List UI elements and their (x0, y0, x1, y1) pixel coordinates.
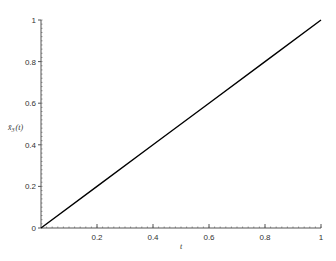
x-tick-label: 0.4 (147, 233, 159, 242)
y-tick-label: 0.4 (25, 141, 37, 150)
line-chart: 0.20.40.60.81 00.20.40.60.81 t x̄3(t) (0, 0, 336, 261)
y-axis-label: x̄3(t) (7, 123, 23, 133)
y-tick-label: 0 (32, 224, 37, 233)
y-axis-ticks: 00.20.40.60.81 (25, 16, 41, 233)
x-tick-label: 0.8 (259, 233, 271, 242)
data-series (41, 20, 321, 228)
series-line (41, 20, 321, 228)
y-tick-label: 0.8 (25, 58, 37, 67)
x-tick-label: 0.6 (203, 233, 215, 242)
x-axis-ticks: 0.20.40.60.81 (91, 224, 323, 242)
y-axis-label-arg: (t) (16, 123, 24, 132)
x-axis-label: t (180, 242, 183, 251)
x-tick-label: 1 (319, 233, 324, 242)
x-tick-label: 0.2 (91, 233, 103, 242)
y-tick-label: 0.2 (25, 182, 37, 191)
y-tick-label: 1 (32, 16, 37, 25)
y-axis-label-sub: 3 (11, 127, 15, 133)
y-tick-label: 0.6 (25, 99, 37, 108)
